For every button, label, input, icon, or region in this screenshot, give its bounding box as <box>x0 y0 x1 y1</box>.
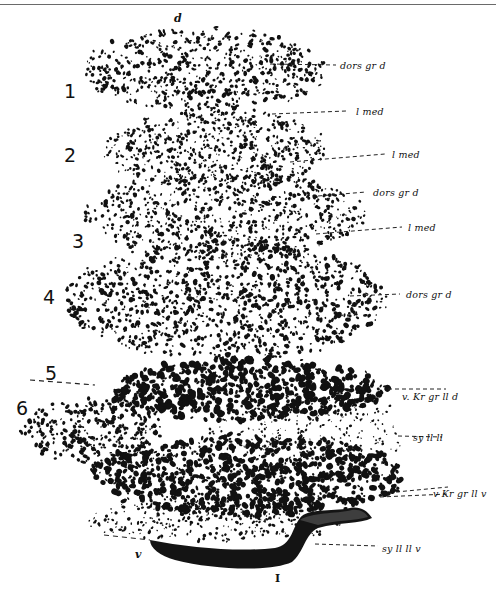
stipple-dot <box>315 530 319 534</box>
stipple-dot <box>139 318 141 319</box>
stipple-dot <box>121 504 122 506</box>
stipple-dot <box>208 297 212 300</box>
stipple-dot <box>130 290 134 293</box>
stipple-dot <box>350 329 352 332</box>
label-leader-line <box>272 111 346 114</box>
stipple-dot <box>310 266 314 269</box>
label-leader-line <box>290 154 385 162</box>
stipple-dot <box>239 282 244 287</box>
stipple-dot <box>23 424 27 428</box>
stipple-dot <box>394 432 398 436</box>
stipple-dot <box>192 188 196 192</box>
stipple-dot <box>140 85 144 89</box>
label-l-med-2: l med <box>392 149 420 160</box>
stipple-dot <box>188 194 191 197</box>
stipple-dot <box>320 76 323 80</box>
stipple-dot <box>249 164 254 169</box>
stipple-dot <box>309 447 312 450</box>
stipple-dot <box>176 155 179 158</box>
stipple-dot <box>116 133 119 136</box>
stipple-dot <box>182 247 187 252</box>
stipple-dot <box>293 386 298 392</box>
stipple-dot <box>164 172 166 173</box>
stipple-dot <box>255 527 256 529</box>
stipple-dot <box>211 174 212 176</box>
stipple-dot <box>141 436 146 439</box>
stipple-dot <box>261 220 265 223</box>
stipple-dot <box>230 248 233 250</box>
stipple-dot <box>140 186 144 191</box>
stipple-dot <box>117 282 123 286</box>
stipple-dot <box>236 197 240 201</box>
stipple-dot <box>160 239 165 244</box>
stipple-dot <box>238 223 242 228</box>
stipple-dot <box>264 155 267 158</box>
stipple-dot <box>263 217 266 220</box>
stipple-dot <box>169 199 171 201</box>
stipple-dot <box>287 196 292 201</box>
stipple-dot <box>122 76 126 79</box>
stipple-dot <box>254 172 256 174</box>
stipple-dot <box>206 476 211 479</box>
stipple-dot <box>196 452 199 455</box>
stipple-dot <box>205 315 208 318</box>
stipple-dot <box>169 525 172 527</box>
stipple-dot <box>218 304 222 308</box>
stipple-dot <box>177 121 179 123</box>
stipple-dot <box>210 278 215 283</box>
stipple-dot <box>168 289 174 295</box>
stipple-dot <box>171 121 175 126</box>
stipple-dot <box>247 427 249 430</box>
stipple-dot <box>348 332 353 337</box>
stipple-dot <box>254 230 258 233</box>
stipple-dot <box>350 384 354 388</box>
stipple-dot <box>142 44 145 48</box>
stipple-dot <box>198 442 200 445</box>
stipple-dot <box>251 338 255 342</box>
stipple-dot <box>136 127 141 131</box>
stipple-dot <box>152 231 154 234</box>
stipple-dot <box>174 470 179 475</box>
stipple-dot <box>222 539 225 541</box>
stipple-dot <box>122 289 126 294</box>
stipple-dot <box>256 136 257 137</box>
stipple-dot <box>215 527 219 530</box>
stipple-dot <box>170 166 173 169</box>
stipple-dot <box>119 225 123 228</box>
stipple-dot <box>318 245 319 247</box>
stipple-dot <box>305 225 307 227</box>
stipple-dot <box>189 339 192 342</box>
label-dors-gr-d-1: dors gr d <box>340 60 386 71</box>
stipple-dot <box>287 147 290 152</box>
stipple-dot <box>168 247 171 250</box>
stipple-dot <box>148 193 150 195</box>
stipple-dot <box>87 273 91 277</box>
stipple-dot <box>203 189 206 192</box>
stipple-dot <box>136 147 138 149</box>
stipple-dot <box>217 148 221 152</box>
stipple-dot <box>219 275 223 279</box>
stipple-dot <box>181 167 185 171</box>
stipple-dot <box>219 166 223 169</box>
stipple-dot <box>360 492 363 495</box>
stipple-dot <box>106 154 109 157</box>
stipple-dot <box>36 415 40 419</box>
stipple-dot <box>134 51 137 54</box>
stipple-dot <box>334 229 337 232</box>
stipple-dot <box>299 265 303 267</box>
stipple-dot <box>235 230 237 232</box>
stipple-dot <box>92 49 95 52</box>
stipple-dot <box>236 296 240 299</box>
stipple-dot <box>154 278 158 282</box>
stipple-dot <box>212 185 218 191</box>
stipple-dot <box>241 413 244 416</box>
stipple-dot <box>276 88 279 90</box>
stipple-dot <box>231 274 236 279</box>
stipple-dot <box>335 189 339 193</box>
stipple-dot <box>120 54 123 56</box>
stipple-dot <box>246 261 251 265</box>
stipple-dot <box>143 517 145 519</box>
stipple-dot <box>283 476 286 479</box>
stipple-dot <box>289 383 294 388</box>
stipple-dot <box>174 265 176 267</box>
